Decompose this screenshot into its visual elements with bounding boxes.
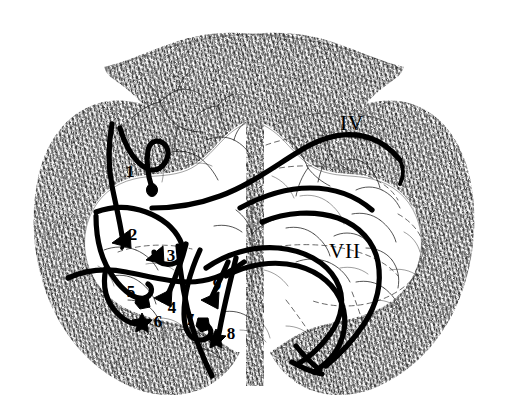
label-terminal-2: 2 bbox=[129, 225, 138, 244]
label-terminal-8: 8 bbox=[227, 324, 236, 343]
spinal-cord-illustration: IV VII 1 2 3 4 5 6 7 8 9 bbox=[0, 0, 507, 414]
white-matter-region bbox=[0, 0, 507, 414]
label-lamina-vii: VII bbox=[329, 239, 361, 263]
label-terminal-9: 9 bbox=[213, 275, 222, 294]
label-terminal-5: 5 bbox=[127, 282, 136, 301]
label-terminal-6: 6 bbox=[154, 312, 163, 331]
terminal-marker-1 bbox=[147, 184, 158, 197]
label-terminal-4: 4 bbox=[168, 298, 177, 317]
label-terminal-7: 7 bbox=[186, 310, 195, 329]
label-terminal-3: 3 bbox=[167, 246, 176, 265]
label-lamina-iv: IV bbox=[340, 111, 364, 135]
spinal-cord-figure: IV VII 1 2 3 4 5 6 7 8 9 bbox=[0, 0, 507, 414]
label-terminal-1: 1 bbox=[126, 162, 135, 181]
